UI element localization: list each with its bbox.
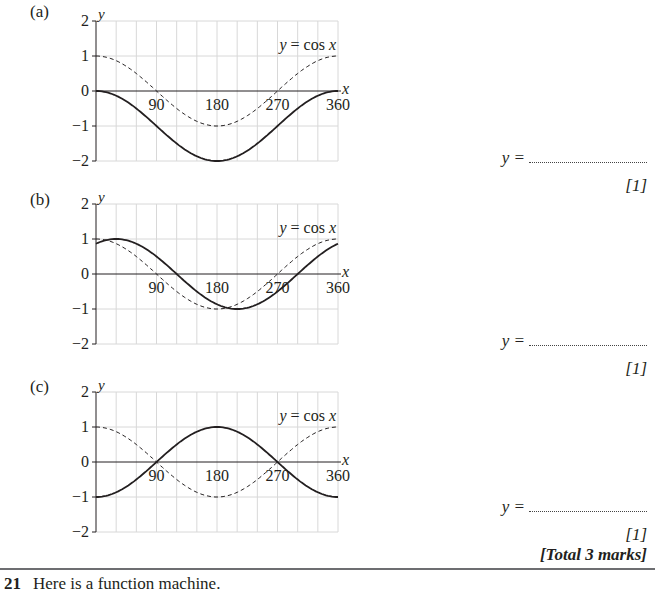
svg-text:y = cos x: y = cos x xyxy=(277,407,336,425)
next-question: 21Here is a function machine. xyxy=(4,574,220,594)
marks-b: [1] xyxy=(477,359,647,379)
svg-text:y: y xyxy=(96,377,105,393)
answer-a-input[interactable] xyxy=(529,148,647,163)
answer-a-prefix: y = xyxy=(502,148,525,168)
svg-text:2: 2 xyxy=(81,383,89,400)
svg-text:360: 360 xyxy=(326,467,350,484)
svg-text:1: 1 xyxy=(81,418,89,435)
answer-c: y = [1] xyxy=(477,497,647,545)
marks-a: [1] xyxy=(477,176,647,196)
answer-b-prefix: y = xyxy=(502,331,525,351)
svg-text:x: x xyxy=(341,451,349,468)
total-marks: [Total 3 marks] xyxy=(540,545,647,565)
answer-a: y = [1] xyxy=(477,148,647,196)
question-text: Here is a function machine. xyxy=(33,574,220,593)
svg-text:−1: −1 xyxy=(72,488,89,505)
svg-text:0: 0 xyxy=(81,453,89,470)
question-number: 21 xyxy=(4,574,21,593)
graph-c: 210−1−290180270360xyy = cos x xyxy=(0,0,380,545)
marks-c: [1] xyxy=(477,525,647,545)
svg-text:180: 180 xyxy=(205,467,229,484)
answer-b: y = [1] xyxy=(477,331,647,379)
svg-text:−2: −2 xyxy=(72,523,89,540)
question-divider xyxy=(0,568,655,570)
answer-b-input[interactable] xyxy=(529,331,647,346)
answer-c-input[interactable] xyxy=(529,497,647,512)
graph-c-svg: 210−1−290180270360xyy = cos x xyxy=(0,0,380,545)
svg-text:90: 90 xyxy=(149,467,165,484)
answer-c-prefix: y = xyxy=(502,497,525,517)
